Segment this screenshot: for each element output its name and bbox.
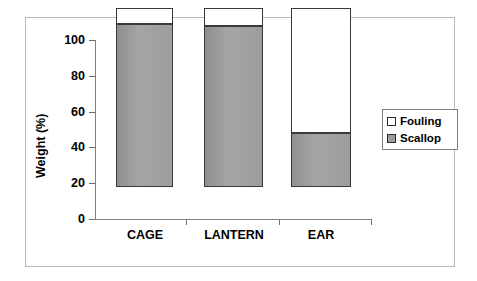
- x-tick-3: [371, 220, 372, 225]
- bar-segment-cage-fouling: [116, 8, 173, 24]
- bar-segment-ear-fouling: [291, 8, 351, 133]
- gray-square-icon: [387, 134, 396, 143]
- x-tick-label-ear: EAR: [292, 229, 350, 242]
- y-tick-label-60: 60: [41, 106, 85, 119]
- chart-screenshot: Weight (%) 100 80 60 40 20 0: [0, 0, 477, 281]
- bar-segment-ear-scallop: [291, 133, 351, 187]
- x-tick-2: [279, 220, 280, 225]
- legend-label-scallop: Scallop: [400, 133, 441, 145]
- y-tick-100: [89, 40, 95, 41]
- y-tick-label-20: 20: [41, 177, 85, 190]
- bar-segment-lantern-scallop: [204, 26, 263, 187]
- legend-label-fouling: Fouling: [400, 116, 442, 128]
- y-tick-label-80: 80: [41, 70, 85, 83]
- x-axis-line: [95, 219, 372, 220]
- legend-row-fouling: Fouling: [387, 113, 457, 130]
- y-tick-20: [89, 183, 95, 184]
- y-tick-60: [89, 112, 95, 113]
- bar-segment-lantern-fouling: [204, 8, 263, 26]
- y-tick-label-0: 0: [41, 213, 85, 226]
- y-tick-label-100: 100: [41, 34, 85, 47]
- white-square-icon: [387, 117, 396, 126]
- x-tick-label-lantern: LANTERN: [198, 229, 270, 242]
- bar-group-cage: [116, 8, 173, 187]
- x-tick-label-cage: CAGE: [114, 229, 176, 242]
- y-tick-40: [89, 147, 95, 148]
- bar-group-ear: [291, 8, 351, 187]
- y-tick-80: [89, 76, 95, 77]
- y-tick-0: [89, 219, 95, 220]
- x-tick-1: [186, 220, 187, 225]
- y-axis-title: Weight (%): [34, 68, 50, 178]
- bar-segment-cage-scallop: [116, 24, 173, 187]
- bar-group-lantern: [204, 8, 263, 187]
- y-axis-line: [95, 40, 96, 220]
- y-tick-label-40: 40: [41, 141, 85, 154]
- legend-row-scallop: Scallop: [387, 130, 457, 147]
- figure-frame: Weight (%) 100 80 60 40 20 0: [25, 17, 455, 267]
- chart-legend: Fouling Scallop: [382, 109, 458, 150]
